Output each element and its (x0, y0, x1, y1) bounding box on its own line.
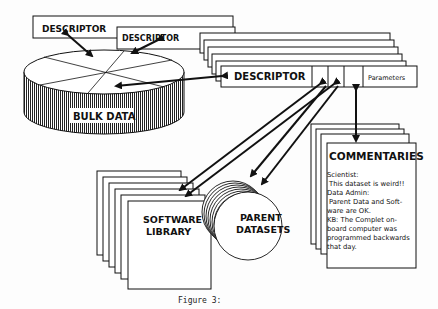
software-label-1: SOFTWARE (143, 214, 202, 225)
software-library-stack: SOFTWARE LIBRARY (97, 171, 211, 289)
descriptor-label-1: DESCRIPTOR (42, 24, 106, 34)
bulk-data-label: BULK DATA (73, 111, 136, 122)
software-label-2: LIBRARY (146, 226, 191, 237)
parent-label-2: DATASETS (236, 224, 290, 235)
commentaries-stack: COMMENTARIES Scientist: This dataset is … (311, 124, 424, 268)
comment-line: that day. (327, 243, 357, 251)
comment-line: KB: The Complet on- (327, 216, 398, 224)
commentaries-title: COMMENTARIES (329, 150, 424, 162)
descriptor-label-2: DESCRIPTOR (122, 34, 179, 43)
figure-3-diagram: DESCRIPTOR DESCRIPTOR BULK DATA DESCRIPT… (0, 0, 438, 309)
comment-line: programmed backwards (327, 234, 410, 242)
bulk-data-disk: BULK DATA (24, 50, 184, 134)
figure-caption: Figure 3: (178, 296, 221, 305)
descriptor-stack: DESCRIPTOR Parameters (200, 33, 417, 87)
comment-line: Scientist: (327, 171, 358, 179)
comment-line: ware are OK. (327, 207, 371, 215)
parameters-label: Parameters (368, 74, 406, 82)
comment-line: Data Admin: (327, 189, 369, 197)
descriptor-main-label: DESCRIPTOR (234, 71, 306, 82)
comment-line: Parent Data and Soft- (329, 198, 403, 206)
parent-label-1: PARENT (240, 212, 282, 223)
comment-line: This dataset is weird!! (328, 180, 405, 188)
comment-line: board computer was (327, 225, 397, 233)
